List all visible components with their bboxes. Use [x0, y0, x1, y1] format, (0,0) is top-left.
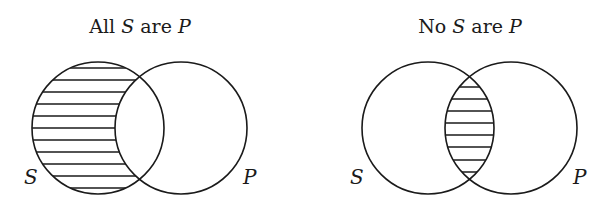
- shaded-region-s-and-p: [420, 87, 520, 172]
- circle-s: [362, 62, 494, 194]
- circle-p: [115, 62, 247, 194]
- label-s: S: [350, 165, 364, 189]
- label-s: S: [24, 165, 38, 189]
- label-p: P: [242, 165, 257, 189]
- diagram-title: All S are P: [88, 15, 192, 37]
- diagram-no-s-are-p: No S are P S P: [350, 15, 587, 194]
- diagram-title: No S are P: [418, 15, 523, 37]
- venn-diagrams: All S are P S P No S are P: [0, 0, 605, 211]
- diagram-all-s-are-p: All S are P S P: [20, 15, 257, 194]
- label-p: P: [572, 165, 587, 189]
- circle-p: [445, 62, 577, 194]
